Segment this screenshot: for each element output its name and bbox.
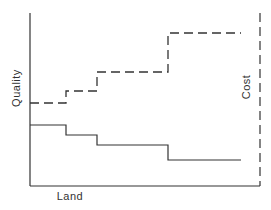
series-dashed — [30, 33, 241, 103]
y-axis-left-label: Quality — [10, 69, 22, 107]
series-solid — [30, 125, 241, 160]
step-chart: Land Quality Cost — [0, 0, 271, 210]
x-axis-label: Land — [57, 190, 83, 202]
y-axis-right-label: Cost — [240, 75, 252, 100]
